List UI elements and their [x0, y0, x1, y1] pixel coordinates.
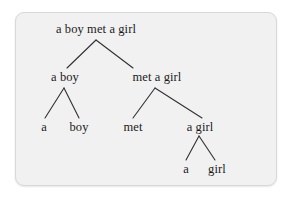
node-label-girl: girl: [208, 163, 226, 176]
node-label-a-girl: a girl: [187, 121, 214, 134]
node-label-a-left: a: [41, 121, 47, 134]
diagram-panel: [15, 12, 277, 186]
node-label-met-a-girl: met a girl: [133, 71, 182, 84]
node-label-met: met: [123, 121, 142, 134]
node-label-root: a boy met a girl: [56, 23, 136, 36]
node-label-a-right: a: [183, 163, 189, 176]
screenshot-root: a boy met a girl a boy met a girl a boy …: [0, 0, 293, 201]
node-label-a-boy: a boy: [51, 71, 79, 84]
node-label-boy: boy: [69, 121, 88, 134]
